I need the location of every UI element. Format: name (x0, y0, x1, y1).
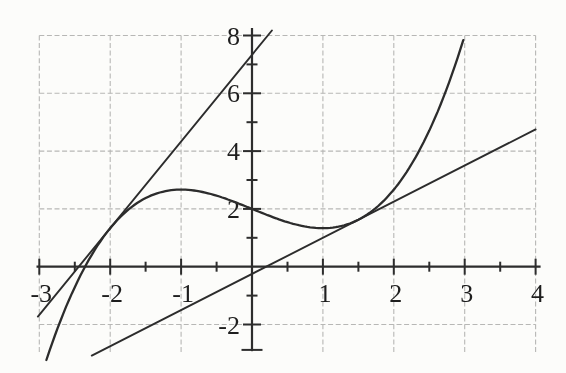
y-axis-tick-label: 8 (227, 22, 240, 51)
paper-background (0, 0, 566, 373)
x-axis-tick-label: 4 (531, 279, 544, 308)
x-axis-tick-label: -2 (101, 279, 123, 308)
figure: -3-2-112348642-2 (0, 0, 566, 373)
x-axis-tick-label: -1 (172, 279, 194, 308)
x-axis-tick-label: 2 (389, 279, 402, 308)
y-axis-tick-label: 4 (227, 137, 240, 166)
x-axis-tick-label: 1 (318, 279, 331, 308)
x-axis-tick-label: 3 (460, 279, 473, 308)
y-axis-tick-label: -2 (218, 311, 240, 340)
plot-svg: -3-2-112348642-2 (0, 0, 566, 373)
